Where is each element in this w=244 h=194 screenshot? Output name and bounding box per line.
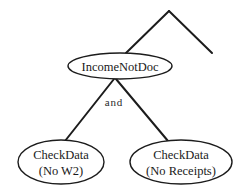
- node-check-data-no-receipts-line1: CheckData: [153, 148, 209, 162]
- node-income-not-doc[interactable]: IncomeNotDoc: [68, 53, 172, 79]
- node-income-not-doc-label: IncomeNotDoc: [81, 60, 159, 74]
- and-connector-label: and: [105, 96, 123, 108]
- node-check-data-no-w2-line2: (No W2): [39, 164, 84, 178]
- node-check-data-no-w2[interactable]: CheckData (No W2): [18, 140, 104, 184]
- node-check-data-no-receipts[interactable]: CheckData (No Receipts): [130, 140, 232, 184]
- apex-right-edge: [169, 11, 212, 53]
- node-check-data-no-receipts-line2: (No Receipts): [146, 164, 216, 178]
- apex-left-edge: [126, 11, 169, 53]
- proof-tree-diagram: IncomeNotDoc and CheckData (No W2) Check…: [0, 0, 244, 194]
- root-to-right-child-edge: [116, 79, 168, 141]
- root-to-left-child-edge: [65, 79, 114, 141]
- node-check-data-no-w2-line1: CheckData: [33, 148, 89, 162]
- tree-canvas: IncomeNotDoc and CheckData (No W2) Check…: [0, 0, 244, 194]
